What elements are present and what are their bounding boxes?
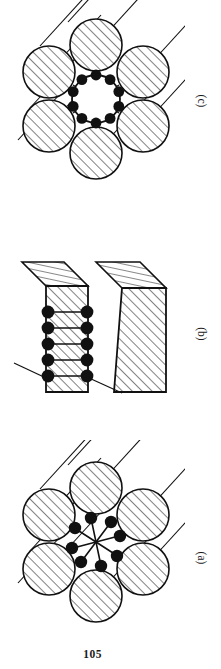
figure-panel-c [0, 0, 185, 220]
particle [42, 370, 55, 383]
panel-a-drawing [0, 440, 185, 655]
particle [81, 306, 94, 319]
left-block [10, 250, 114, 414]
scanned-page: (c) [0, 0, 221, 669]
right-block [84, 250, 185, 416]
lay-line [68, 440, 120, 465]
particle [81, 370, 94, 383]
panel-label-c: (c) [196, 84, 208, 118]
core-particle [114, 530, 126, 542]
core-particle [68, 86, 79, 97]
figure-panel-b [0, 220, 185, 440]
particle [81, 338, 94, 351]
page-number: 105 [0, 648, 185, 660]
particle [42, 306, 55, 319]
core-particle [113, 101, 124, 112]
core-particle [69, 522, 81, 534]
particle [81, 354, 94, 367]
panel-label-b: (b) [196, 317, 208, 351]
particle [42, 338, 55, 351]
panel-c-drawing [0, 0, 185, 220]
core-particle [91, 70, 102, 81]
core-particle [105, 74, 116, 85]
particle [42, 354, 55, 367]
figure-panel-a [0, 440, 185, 655]
core-particle [111, 550, 123, 562]
core-particle [91, 118, 102, 129]
core-particle [68, 101, 79, 112]
particle [42, 322, 55, 335]
core-particle [105, 516, 117, 528]
panel-b-drawing [0, 220, 185, 440]
core-particle [105, 113, 116, 124]
core-particle [75, 556, 87, 568]
core-particle [77, 113, 88, 124]
pinwheel-stems-group [77, 523, 115, 561]
core-particle [77, 74, 88, 85]
particle [81, 322, 94, 335]
core-particle [66, 542, 78, 554]
core-particle [95, 560, 107, 572]
core-particle [85, 512, 97, 524]
leader-line [14, 363, 46, 378]
core-particle [113, 86, 124, 97]
panel-label-a: (a) [196, 541, 208, 575]
